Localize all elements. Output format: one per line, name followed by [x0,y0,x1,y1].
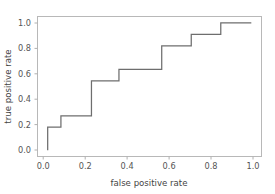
x-tick-label: 0.6 [163,161,176,171]
x-tick-label: 0.4 [121,161,134,171]
y-tick-label: 0.0 [18,145,31,155]
x-tick-label: 0.8 [204,161,217,171]
y-axis-label: true positive rate [3,49,13,123]
x-axis-label: false positive rate [110,178,187,188]
x-tick-label: 1.0 [246,161,259,171]
y-tick-label: 0.4 [18,94,31,104]
x-tick-label: 0.0 [37,161,50,171]
roc-curve-figure: 0.0 0.2 0.4 0.6 0.8 1.0 0.0 0.2 0.4 0.6 … [0,0,275,194]
y-tick-label: 1.0 [18,18,31,28]
chart-canvas: 0.0 0.2 0.4 0.6 0.8 1.0 0.0 0.2 0.4 0.6 … [0,0,275,194]
x-tick-label: 0.2 [79,161,92,171]
y-tick-label: 0.6 [18,69,31,79]
y-tick-label: 0.8 [18,43,31,53]
y-tick-label: 0.2 [18,120,31,130]
